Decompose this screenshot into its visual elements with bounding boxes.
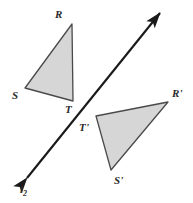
triangle-rst-prime-shape: [96, 102, 168, 170]
vertex-label-r-prime: R': [172, 88, 183, 99]
vertex-label-r: R: [55, 9, 63, 20]
vertex-label-t: T: [65, 104, 72, 115]
vertex-label-s: S: [12, 90, 18, 101]
triangle-rst: [25, 24, 73, 101]
geometry-figure: R S T R' S' T' l2: [0, 0, 193, 203]
vertex-label-t-prime: T': [79, 122, 89, 133]
triangle-rst-prime: [96, 102, 168, 170]
triangle-rst-shape: [25, 24, 73, 101]
vertex-label-s-prime: S': [114, 175, 124, 186]
line-label-subscript: 2: [23, 189, 27, 198]
line-label-l2: l2: [20, 184, 27, 198]
reflection-line-l2: [27, 13, 160, 178]
line-l2-stroke: [27, 13, 160, 178]
figure-canvas: [0, 0, 193, 203]
